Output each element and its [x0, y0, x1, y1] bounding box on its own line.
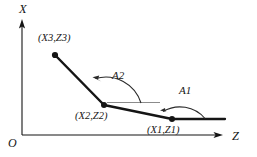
vertex-dot-p3	[52, 52, 58, 58]
vertex-dot-p2	[101, 102, 107, 108]
point-label-p3: (X3,Z3)	[38, 33, 70, 44]
z-axis-label: Z	[232, 130, 239, 143]
point-label-p1: (X1,Z1)	[147, 125, 179, 136]
origin-label: O	[8, 137, 17, 149]
angle-diagram-svg	[0, 0, 257, 157]
vertex-dot-p1	[169, 116, 175, 122]
x-axis-label: X	[19, 3, 27, 16]
point-label-p2: (X2,Z2)	[75, 111, 107, 122]
segment-p2-p1	[104, 105, 172, 119]
angle-arc-a2-arrowhead	[93, 76, 102, 82]
angle-label-a2: A2	[112, 70, 124, 81]
angle-label-a1: A1	[179, 85, 191, 96]
segment-p3-p2	[55, 55, 104, 105]
figure-canvas: X Z O (X3,Z3) (X2,Z2) (X1,Z1) A2 A1	[0, 0, 257, 157]
vertex-dot-group	[52, 52, 175, 122]
angle-arc-a1	[163, 107, 205, 119]
